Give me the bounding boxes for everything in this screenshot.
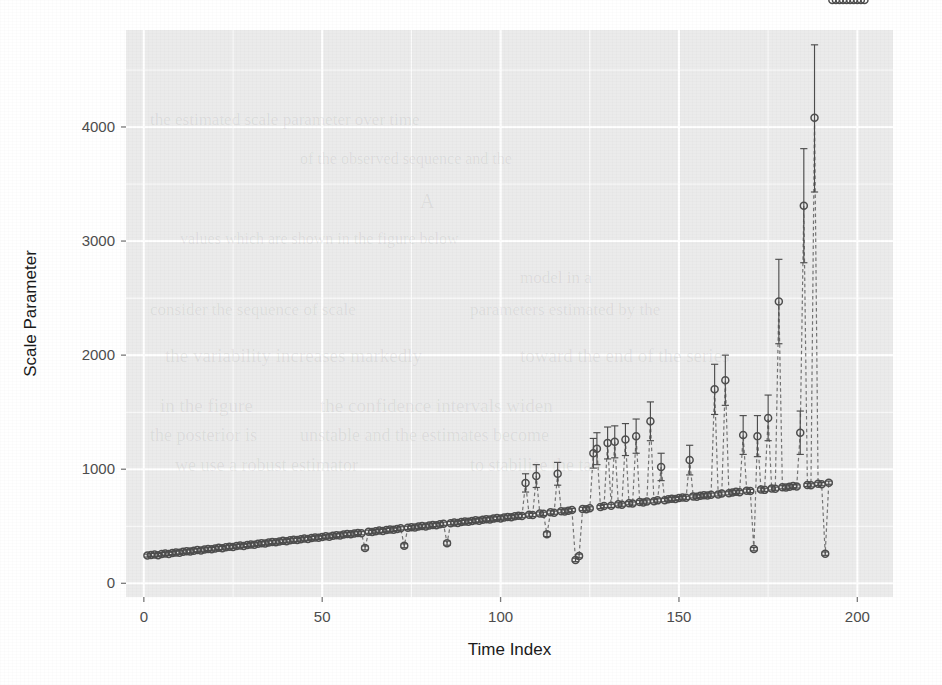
- x-tick-label: 100: [488, 608, 513, 625]
- x-axis-title: Time Index: [468, 640, 552, 659]
- y-tick-label: 0: [107, 574, 115, 591]
- y-axis-title: Scale Parameter: [21, 250, 40, 377]
- y-tick-label: 3000: [82, 232, 115, 249]
- x-tick-label: 50: [314, 608, 331, 625]
- panel-background: [126, 30, 893, 597]
- y-tick-label: 1000: [82, 460, 115, 477]
- scale-parameter-chart: 01000200030004000050100150200Time IndexS…: [0, 0, 942, 685]
- x-tick-label: 200: [845, 608, 870, 625]
- plot-panel: [126, 30, 893, 597]
- figure-container: the estimated scale parameter over timeo…: [0, 0, 942, 685]
- y-tick-label: 2000: [82, 346, 115, 363]
- y-tick-label: 4000: [82, 118, 115, 135]
- x-tick-label: 0: [140, 608, 148, 625]
- x-tick-label: 150: [666, 608, 691, 625]
